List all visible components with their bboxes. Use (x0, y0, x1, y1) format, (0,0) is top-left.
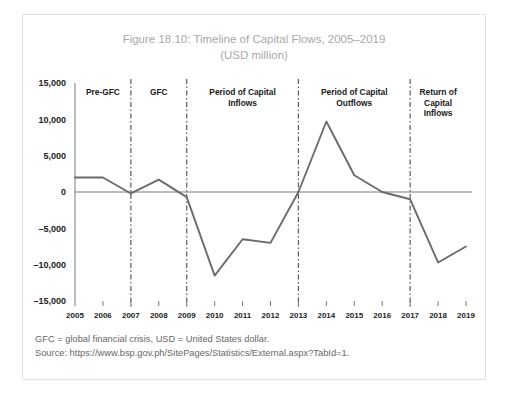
period-label-line: Outflows (336, 98, 372, 108)
x-axis-tick-label: 2017 (401, 311, 419, 320)
capital-flows-line-chart: 15,00010,0005,0000–5,000–10,000–15,00020… (23, 15, 487, 381)
x-axis-tick-label: 2010 (206, 311, 224, 320)
capital-flows-series-line (75, 122, 466, 276)
period-label-period-of-capital-inflows: Period of CapitalInflows (209, 87, 276, 108)
y-axis-tick-label: –15,000 (33, 296, 66, 306)
period-label-line: Period of Capital (209, 87, 276, 97)
period-label-line: Period of Capital (321, 87, 388, 97)
x-axis-tick-label: 2015 (345, 311, 363, 320)
x-axis-tick-label: 2006 (94, 311, 112, 320)
figure-container: Figure 18.10: Timeline of Capital Flows,… (22, 14, 486, 380)
x-axis-tick-label: 2012 (262, 311, 280, 320)
period-label-gfc: GFC (150, 87, 168, 97)
y-axis-tick-label: –5,000 (38, 224, 66, 234)
abbreviation-note: GFC = global financial crisis, USD = Uni… (35, 333, 475, 347)
period-label-pre-gfc: Pre-GFC (86, 87, 120, 97)
y-axis-tick-label: 15,000 (38, 78, 66, 88)
period-label-line: Inflows (228, 98, 257, 108)
y-axis-tick-label: 0 (61, 187, 66, 197)
x-axis-tick-label: 2019 (457, 311, 475, 320)
x-axis-tick-label: 2013 (290, 311, 308, 320)
period-label-line: Pre-GFC (86, 87, 120, 97)
x-axis-tick-label: 2011 (234, 311, 252, 320)
y-axis-tick-label: 5,000 (43, 151, 66, 161)
y-axis-tick-label: –10,000 (33, 260, 66, 270)
x-axis-tick-label: 2016 (373, 311, 391, 320)
period-label-line: Return of (419, 87, 456, 97)
period-label-line: Inflows (424, 108, 453, 118)
x-axis-tick-label: 2018 (429, 311, 447, 320)
period-label-line: Capital (424, 98, 452, 108)
period-label-line: GFC (150, 87, 168, 97)
x-axis-tick-label: 2014 (317, 311, 335, 320)
x-axis-tick-label: 2009 (178, 311, 196, 320)
y-axis-tick-label: 10,000 (38, 115, 66, 125)
period-label-return-of-capital-inflows: Return ofCapitalInflows (419, 87, 456, 118)
source-note: Source: https://www.bsp.gov.ph/SitePages… (35, 347, 475, 361)
period-label-period-of-capital-outflows: Period of CapitalOutflows (321, 87, 388, 108)
x-axis-tick-label: 2007 (122, 311, 140, 320)
x-axis-tick-label: 2008 (150, 311, 168, 320)
x-axis-tick-label: 2005 (66, 311, 84, 320)
figure-notes: GFC = global financial crisis, USD = Uni… (35, 333, 475, 360)
